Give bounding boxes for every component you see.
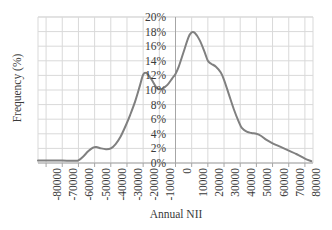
y-axis-tick-label: 20%: [133, 11, 166, 23]
chart-plot-area: [0, 0, 332, 230]
y-axis-tick-labels: 0%2%4%6%8%10%12%14%16%18%20%: [133, 10, 166, 170]
y-axis-tick-label: 2%: [133, 142, 166, 154]
y-axis-tick-label: 10%: [133, 84, 166, 96]
y-axis-tick-label: 12%: [133, 69, 166, 81]
y-axis-tick-label: 4%: [133, 128, 166, 140]
axis-tick-marks: [46, 163, 305, 167]
y-axis-tick-label: 0%: [133, 157, 166, 169]
y-axis-tick-label: 6%: [133, 113, 166, 125]
chart-figure: Frequency (%) 0%2%4%6%8%10%12%14%16%18%2…: [0, 0, 332, 230]
y-axis-title: Frequency (%): [11, 28, 23, 148]
y-axis-tick-label: 8%: [133, 99, 166, 111]
x-axis-title: Annual NII: [86, 208, 266, 220]
y-axis-tick-label: 16%: [133, 40, 166, 52]
y-axis-tick-label: 18%: [133, 26, 166, 38]
data-series-line: [38, 32, 311, 161]
y-axis-tick-label: 14%: [133, 55, 166, 67]
